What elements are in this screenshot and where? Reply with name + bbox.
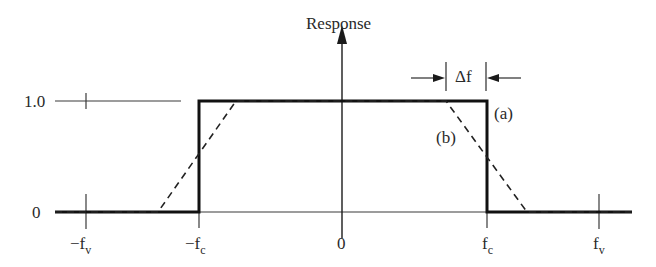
y-tick-zero-label: 0 bbox=[32, 204, 41, 221]
delta-f-left-arrow-icon bbox=[433, 74, 445, 82]
y-axis-label: Response bbox=[306, 15, 371, 32]
curve-a-label: (a) bbox=[494, 105, 513, 122]
x-tick-fc-label: fc bbox=[482, 235, 493, 252]
curve-b-label: (b) bbox=[436, 129, 456, 146]
frequency-response-diagram bbox=[0, 0, 656, 267]
delta-f-right-arrow-icon bbox=[487, 74, 499, 82]
curve-a-rectangular bbox=[55, 101, 632, 212]
x-tick-zero-label: 0 bbox=[337, 235, 346, 252]
x-tick-neg-fc-label: −fc bbox=[185, 235, 206, 252]
delta-f-label: Δf bbox=[455, 68, 472, 85]
x-tick-fv-label: fv bbox=[593, 235, 605, 252]
x-tick-neg-fv-label: −fv bbox=[70, 235, 91, 252]
curve-b-trapezoid bbox=[55, 101, 632, 212]
y-tick-one-label: 1.0 bbox=[24, 93, 45, 110]
